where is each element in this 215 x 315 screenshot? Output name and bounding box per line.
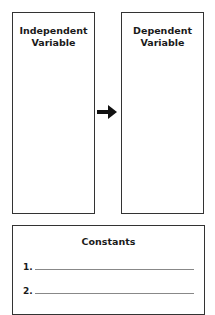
title-line-2: Variable xyxy=(13,37,94,49)
constants-box: Constants 1. 2. xyxy=(12,225,205,315)
constant-blank-line[interactable] xyxy=(35,292,194,294)
title-line-1: Dependent xyxy=(122,25,203,37)
dependent-variable-box: Dependent Variable xyxy=(121,12,204,214)
independent-variable-title: Independent Variable xyxy=(13,25,94,49)
constant-blank-line[interactable] xyxy=(35,268,194,270)
independent-variable-box: Independent Variable xyxy=(12,12,95,214)
title-line-1: Independent xyxy=(13,25,94,37)
title-line-2: Variable xyxy=(122,37,203,49)
dependent-variable-title: Dependent Variable xyxy=(122,25,203,49)
right-arrow-icon xyxy=(97,105,117,119)
constant-number: 1. xyxy=(23,262,33,272)
constant-item-1[interactable]: 1. xyxy=(23,260,194,272)
constant-number: 2. xyxy=(23,286,33,296)
constants-title: Constants xyxy=(13,236,204,248)
constant-item-2[interactable]: 2. xyxy=(23,284,194,296)
